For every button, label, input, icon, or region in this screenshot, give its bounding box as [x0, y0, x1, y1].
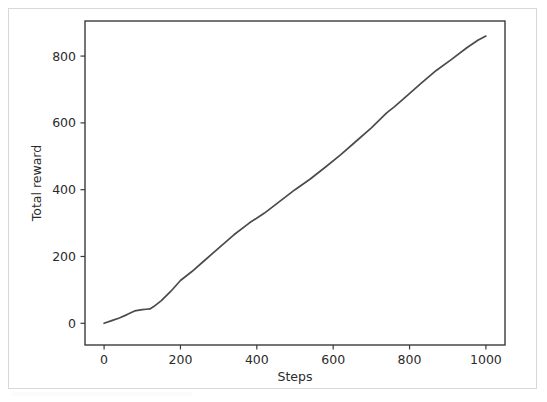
- figure-canvas: 02004006008001000 0200400600800 Steps To…: [0, 0, 547, 402]
- x-tick-label: 200: [169, 352, 193, 367]
- x-axis-label: Steps: [278, 369, 313, 384]
- y-tick-label: 200: [52, 249, 76, 264]
- x-tick-label: 400: [245, 352, 269, 367]
- x-tick-label: 800: [398, 352, 422, 367]
- plot-area-background: [85, 21, 505, 345]
- x-tick-label: 0: [100, 352, 108, 367]
- y-tick-label: 400: [52, 182, 76, 197]
- x-tick-label: 600: [321, 352, 345, 367]
- y-axis-label: Total reward: [29, 145, 44, 222]
- line-chart: 02004006008001000 0200400600800 Steps To…: [0, 0, 547, 402]
- bottom-edge-artifact: [12, 392, 192, 396]
- y-tick-label: 600: [52, 115, 76, 130]
- x-tick-label: 1000: [470, 352, 502, 367]
- y-axis-ticks: 0200400600800: [52, 49, 85, 331]
- y-tick-label: 800: [52, 49, 76, 64]
- y-tick-label: 0: [68, 316, 76, 331]
- x-axis-ticks: 02004006008001000: [100, 345, 502, 367]
